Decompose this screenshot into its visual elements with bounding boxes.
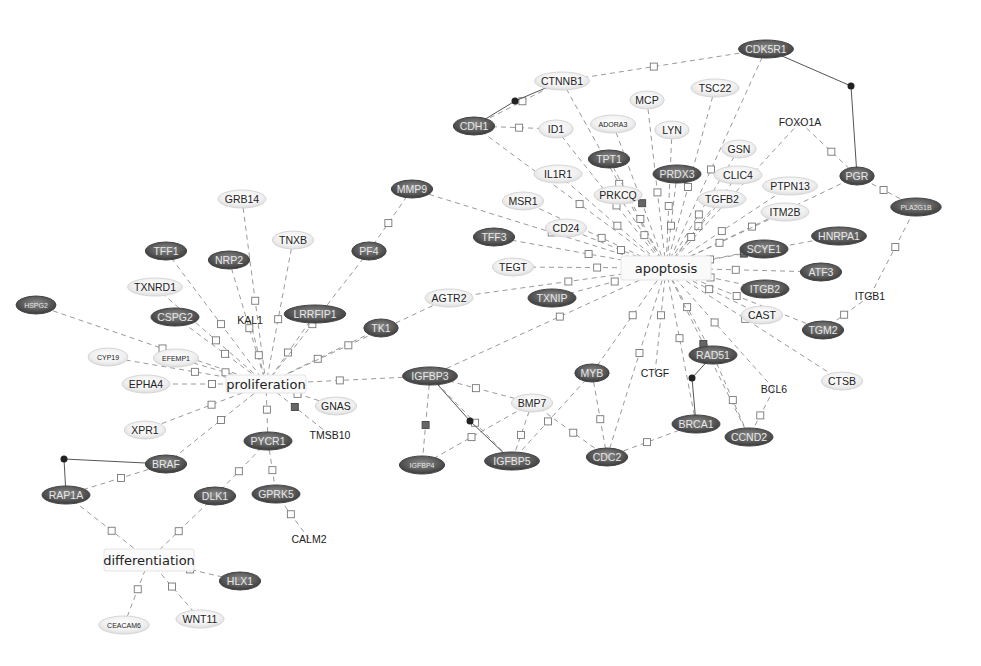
- gene-node-ctgf[interactable]: CTGF: [641, 367, 670, 379]
- gene-node-pgr[interactable]: PGR: [840, 167, 874, 185]
- gene-node-rad51[interactable]: RAD51: [689, 346, 737, 364]
- gene-node-nrp2[interactable]: NRP2: [208, 251, 249, 269]
- gene-node-ctnnb1[interactable]: CTNNB1: [535, 72, 590, 90]
- gene-label: CCND2: [731, 431, 767, 443]
- gene-node-ctsb[interactable]: CTSB: [821, 372, 862, 390]
- gene-node-tk1[interactable]: TK1: [364, 319, 398, 337]
- edge-marker: [291, 403, 298, 410]
- gene-node-bmp7[interactable]: BMP7: [511, 394, 552, 412]
- process-node-proliferation[interactable]: proliferation: [226, 375, 306, 393]
- gene-node-rap1a[interactable]: RAP1A: [42, 486, 90, 504]
- gene-node-lyn[interactable]: LYN: [655, 121, 689, 139]
- edge-marker: [695, 211, 702, 218]
- gene-node-gprk5[interactable]: GPRK5: [252, 485, 300, 503]
- gene-node-tgm2[interactable]: TGM2: [802, 321, 843, 339]
- gene-node-myb[interactable]: MYB: [575, 364, 609, 382]
- gene-node-prdx3[interactable]: PRDX3: [653, 165, 701, 183]
- gene-node-cdh1[interactable]: CDH1: [453, 117, 494, 135]
- gene-node-pf4[interactable]: PF4: [352, 242, 386, 260]
- gene-label: CLIC4: [723, 169, 753, 181]
- gene-node-agtr2[interactable]: AGTR2: [425, 289, 473, 307]
- gene-node-ccnd2[interactable]: CCND2: [725, 428, 773, 446]
- gene-node-pla2g1b[interactable]: PLA2G1B: [891, 198, 941, 216]
- gene-node-il1r1[interactable]: IL1R1: [534, 165, 582, 183]
- gene-node-scye1[interactable]: SCYE1: [740, 240, 788, 258]
- gene-node-mcp[interactable]: MCP: [630, 91, 664, 109]
- gene-node-txnip[interactable]: TXNIP: [528, 289, 576, 307]
- gene-node-igfbp4[interactable]: IGFBP4: [399, 456, 444, 474]
- process-node-apoptosis[interactable]: apoptosis: [621, 256, 711, 280]
- gene-label: MYB: [581, 367, 604, 379]
- gene-node-itm2b[interactable]: ITM2B: [761, 203, 809, 221]
- gene-node-igfbp3[interactable]: IGFBP3: [403, 367, 458, 385]
- gene-network-diagram: apoptosisproliferationdifferentiation CD…: [0, 0, 981, 666]
- gene-node-foxo1a[interactable]: FOXO1A: [779, 116, 822, 128]
- gene-node-cyp19[interactable]: CYP19: [88, 348, 128, 366]
- gene-label: TGFB2: [705, 193, 739, 205]
- gene-node-ptpn13[interactable]: PTPN13: [763, 177, 818, 195]
- gene-node-itgb1[interactable]: ITGB1: [855, 290, 886, 302]
- gene-label: TFF3: [481, 231, 506, 243]
- gene-node-mmp9[interactable]: MMP9: [391, 180, 432, 198]
- gene-node-cspg2[interactable]: CSPG2: [151, 308, 199, 326]
- gene-node-tsc22[interactable]: TSC22: [691, 79, 739, 97]
- gene-node-tgfb2[interactable]: TGFB2: [698, 190, 746, 208]
- gene-node-clic4[interactable]: CLIC4: [714, 166, 762, 184]
- gene-node-bcl6[interactable]: BCL6: [761, 383, 787, 395]
- gene-node-tff3[interactable]: TFF3: [473, 228, 514, 246]
- gene-node-txnrd1[interactable]: TXNRD1: [128, 278, 183, 296]
- gene-node-brca1[interactable]: BRCA1: [672, 415, 720, 433]
- gene-node-braf[interactable]: BRAF: [145, 455, 186, 473]
- gene-node-atf3[interactable]: ATF3: [800, 263, 841, 281]
- edge-marker: [516, 124, 523, 131]
- gene-node-gsn[interactable]: GSN: [722, 140, 756, 158]
- gene-node-kal1[interactable]: KAL1: [237, 314, 263, 326]
- gene-label: CDC2: [593, 451, 622, 463]
- gene-label: TNXB: [279, 234, 307, 246]
- gene-node-ceacam6[interactable]: CEACAM6: [99, 616, 149, 634]
- gene-node-dlk1[interactable]: DLK1: [194, 487, 235, 505]
- gene-node-msr1[interactable]: MSR1: [502, 192, 543, 210]
- gene-node-epha4[interactable]: EPHA4: [122, 375, 170, 393]
- edge: [532, 403, 607, 457]
- gene-node-cdc2[interactable]: CDC2: [586, 448, 627, 466]
- gene-node-hspg2[interactable]: HSPG2: [16, 296, 56, 314]
- gene-node-tnxb[interactable]: TNXB: [272, 231, 313, 249]
- edge-marker: [252, 297, 259, 304]
- gene-node-pycr1[interactable]: PYCR1: [244, 432, 292, 450]
- gene-node-itob2[interactable]: ITGB2: [741, 280, 789, 298]
- edge-marker: [263, 406, 270, 413]
- gene-node-cast[interactable]: CAST: [741, 306, 782, 324]
- process-node-differentiation[interactable]: differentiation: [103, 549, 195, 571]
- edge-marker: [841, 311, 848, 318]
- gene-label: BMP7: [518, 397, 547, 409]
- gene-node-cd24[interactable]: CD24: [545, 219, 586, 237]
- gene-node-prkcq[interactable]: PRKCQ: [594, 186, 642, 204]
- gene-node-igfbp5[interactable]: IGFBP5: [485, 452, 540, 470]
- gene-node-hlx1[interactable]: HLX1: [219, 572, 260, 590]
- gene-node-tff1[interactable]: TFF1: [145, 242, 186, 260]
- gene-node-lrrfip1[interactable]: LRRFIP1: [284, 305, 346, 323]
- gene-node-grb14[interactable]: GRB14: [218, 190, 266, 208]
- gene-label: PYCR1: [250, 435, 285, 447]
- gene-label: TK1: [371, 322, 390, 334]
- gene-node-tegt[interactable]: TEGT: [492, 258, 533, 276]
- gene-node-xpr1[interactable]: XPR1: [124, 421, 165, 439]
- gene-node-efemp1[interactable]: EFEMP1: [153, 349, 198, 367]
- gene-label: CTGF: [641, 367, 670, 379]
- edge: [607, 268, 666, 457]
- gene-node-tmsb10[interactable]: TMSB10: [310, 429, 351, 441]
- gene-node-hnrpa1[interactable]: HNRPA1: [812, 227, 867, 245]
- edge-marker: [639, 200, 646, 207]
- gene-node-calm2[interactable]: CALM2: [291, 533, 326, 545]
- gene-node-tpt1[interactable]: TPT1: [588, 150, 629, 168]
- gene-node-wnt11[interactable]: WNT11: [176, 610, 224, 628]
- edge-marker: [213, 337, 220, 344]
- gene-node-gnas[interactable]: GNAS: [315, 397, 356, 415]
- gene-node-cdk5r1[interactable]: CDK5R1: [739, 40, 794, 58]
- process-label: apoptosis: [635, 261, 698, 276]
- gene-label: XPR1: [131, 424, 159, 436]
- gene-node-adora3[interactable]: ADORA3: [590, 115, 635, 133]
- gene-node-id1[interactable]: ID1: [539, 120, 573, 138]
- binding-dot: [848, 83, 855, 90]
